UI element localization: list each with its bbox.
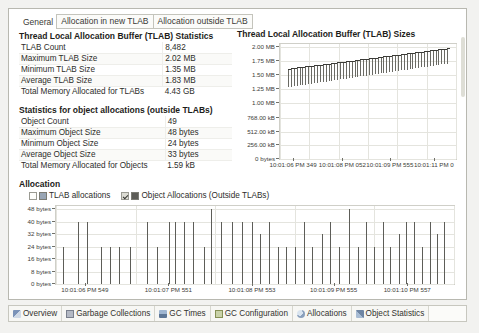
allocation-title: Allocation [19,179,60,189]
tlab-sizes-plot-area[interactable] [279,43,457,160]
chart-bar [204,247,205,284]
row-key: Minimum Object Size [19,138,165,149]
x-tick-mark [434,158,435,161]
chart-bar [78,222,79,284]
chart-bar [447,48,448,63]
chart-bar [414,222,415,284]
row-value: 48 bytes [165,127,232,138]
gridline [456,44,457,159]
chart-bar [130,247,131,284]
legend-item-tlab-allocations[interactable]: TLAB allocations [29,191,110,200]
bottom-tab-gc-times[interactable]: GC Times [155,306,210,321]
y-tick-label: 1.25 MB [237,84,275,91]
chart-bar [331,63,332,81]
allocation-chart: 0 bytes8 bytes16 bytes24 bytes32 bytes40… [19,205,459,301]
y-tick-label: 2.00 MB [237,42,275,49]
tlab-allocations-label: TLAB allocations [49,191,110,200]
chart-bar [221,222,222,284]
chart-bar [366,59,367,76]
row-value: 49 [165,116,232,127]
y-tick-label: 256.00 kB [237,141,275,148]
y-tick-mark [52,233,55,234]
allocation-legend: TLAB allocations Object Allocations (Out… [29,191,269,200]
table-row: TLAB Count 8,482 [19,42,232,53]
tab-general[interactable]: General [19,16,57,29]
chart-bar [444,49,445,64]
bottom-tab-gc-configuration[interactable]: GC Configuration [211,306,293,321]
tab-allocation-outside-tlab[interactable]: Allocation outside TLAB [153,14,253,29]
x-tick-label: 10:01:07 PM 551 [145,286,192,293]
chart-bar [369,58,370,75]
bottom-tab-label: Garbage Collections [76,309,150,318]
vertical-scrollbar[interactable] [461,37,465,97]
chart-bar [381,57,382,74]
bottom-tab-allocations[interactable]: Allocations [293,306,352,321]
row-key: Object Count [19,116,165,127]
chart-bar [375,58,376,75]
x-tick-label: 10:01:09 PM 555 [310,286,357,293]
tlab-statistics-title: Thread Local Allocation Buffer (TLAB) St… [19,31,213,41]
table-row: Minimum TLAB Size 1.35 MB [19,64,232,75]
y-tick-mark [52,283,55,284]
row-key: Maximum TLAB Size [19,53,163,64]
y-tick-label: 1.75 MB [237,56,275,63]
chart-bar [404,54,405,70]
chart-bar [346,61,347,78]
y-tick-mark [276,88,279,89]
chart-bar [438,49,439,65]
chart-bar [430,50,431,66]
tlab-allocations-checkbox[interactable] [29,192,37,200]
chart-bar [288,69,289,88]
tab-allocation-in-new-tlab[interactable]: Allocation in new TLAB [56,14,153,29]
row-value: 24 bytes [165,138,232,149]
chart-bar [302,67,303,85]
row-value: 1.35 MB [163,64,232,75]
chart-bar [269,222,270,284]
chart-bar [169,222,170,284]
row-key: Minimum TLAB Size [19,64,163,75]
gridline [56,206,57,284]
gc-times-icon [159,310,167,318]
legend-item-object-allocations[interactable]: Object Allocations (Outside TLABs) [121,191,269,200]
bottom-tab-garbage-collections[interactable]: Garbage Collections [62,306,155,321]
x-tick-label: 10:01:06 PM 349 [270,161,317,168]
x-tick-mark [85,283,86,286]
chart-bar [390,247,391,284]
row-value: 8,482 [163,42,232,53]
chart-bar [329,64,330,82]
chart-bar [87,222,88,284]
allocation-plot-area[interactable] [55,205,455,285]
chart-bar [372,58,373,75]
chart-bar [305,66,306,84]
bottom-tab-label: GC Times [169,309,205,318]
chart-bar [175,222,176,284]
chart-bar [157,247,158,284]
chart-bar [383,56,384,73]
gridline [280,159,456,160]
y-tick-label: 1.00 MB [237,98,275,105]
gridline [56,284,454,285]
chart-bar [323,64,324,82]
chart-line-segment [447,48,450,49]
gridline [309,44,310,159]
chart-bar [392,55,393,71]
bottom-tab-overview[interactable]: Overview [9,306,62,321]
bottom-tab-label: GC Configuration [225,309,288,318]
chart-bar [410,53,411,69]
chart-bar [389,56,390,72]
chart-bar [363,59,364,76]
x-tick-label: 10:01:08 PM 553 [228,286,275,293]
chart-bar [184,222,185,284]
bottom-tab-label: Overview [23,309,57,318]
object-allocations-checkbox[interactable] [121,192,129,200]
object-statistics-title: Statistics for object allocations (outsi… [19,105,213,115]
y-tick-label: 768.00 kB [237,113,275,120]
tlab-sizes-chart-title: Thread Local Allocation Buffer (TLAB) Si… [237,29,459,39]
row-value: 33 bytes [165,149,232,160]
chart-bar [330,222,331,284]
y-tick-mark [52,258,55,259]
chart-bar [340,62,341,79]
bottom-tab-object-statistics[interactable]: Object Statistics [352,306,430,321]
chart-bar [406,222,407,284]
allocations-icon [297,310,305,318]
